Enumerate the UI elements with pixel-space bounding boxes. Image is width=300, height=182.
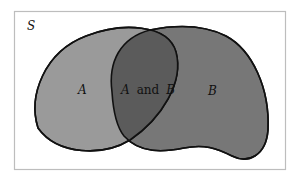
intersection-label-and: and bbox=[137, 83, 160, 97]
venn-diagram: S A A and B B bbox=[0, 0, 300, 182]
intersection-label: A and B bbox=[120, 83, 175, 97]
universe-label: S bbox=[27, 19, 35, 33]
set-b-label: B bbox=[207, 84, 217, 98]
set-a-label: A bbox=[77, 83, 87, 97]
intersection-label-a: A bbox=[120, 83, 130, 97]
intersection-label-b: B bbox=[165, 83, 175, 97]
